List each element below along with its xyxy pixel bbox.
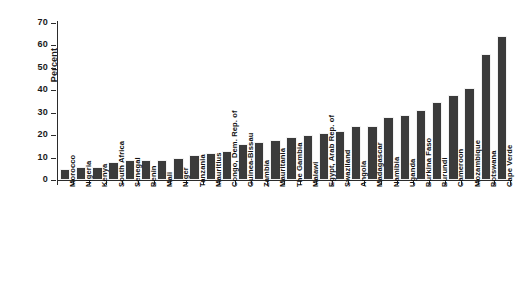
x-category-label: Tanzania: [198, 154, 207, 187]
x-category-label: Angola: [359, 161, 368, 187]
x-category-label: Niger: [181, 167, 190, 187]
x-category-label: Senegal: [133, 157, 142, 187]
x-category-label: Mauritania: [278, 148, 287, 187]
x-tick-mark: [57, 181, 58, 185]
x-category-label: Mali: [165, 172, 174, 187]
x-category-label: Benin: [149, 165, 158, 187]
x-category-label: Namibia: [392, 157, 401, 187]
x-category-label: Burkina Faso: [424, 138, 433, 187]
x-category-label: South Africa: [117, 141, 126, 187]
x-category-label: Burundi: [440, 157, 449, 187]
x-category-label: Nigeria: [84, 161, 93, 187]
y-tick-label: 30: [22, 107, 48, 117]
y-tick-label: 60: [22, 39, 48, 49]
x-category-label: Zambia: [262, 160, 271, 187]
x-category-label: Egypt, Arab Rep. of: [327, 115, 336, 187]
y-tick-mark: [51, 90, 56, 91]
x-category-label: Kenya: [100, 164, 109, 187]
y-tick-label: 70: [22, 17, 48, 27]
y-tick-mark: [51, 68, 56, 69]
x-category-label: Congo, Dem. Rep. of: [230, 110, 239, 187]
y-tick-label: 50: [22, 62, 48, 72]
x-category-label: Malawi: [311, 162, 320, 188]
x-category-label: Cameroon: [456, 149, 465, 187]
x-category-label: Morocco: [68, 155, 77, 187]
y-tick-mark: [51, 180, 56, 181]
y-tick-label: 10: [22, 152, 48, 162]
y-tick-mark: [51, 23, 56, 24]
x-category-label: Cape Verde: [505, 145, 514, 187]
x-category-label: Uganda: [408, 159, 417, 187]
x-category-label: Guinea-Bissau: [246, 133, 255, 187]
y-tick-mark: [51, 158, 56, 159]
x-category-label: Mozambique: [473, 140, 482, 187]
x-category-label: The Gambia: [295, 143, 304, 187]
y-tick-mark: [51, 113, 56, 114]
y-tick-mark: [51, 45, 56, 46]
x-category-label: Mauritius: [214, 152, 223, 187]
y-tick-mark: [51, 135, 56, 136]
chart-screenshot: Percent 010203040506070 MoroccoNigeriaKe…: [0, 0, 523, 282]
y-tick-label: 0: [22, 174, 48, 184]
x-category-label: Madagascar: [375, 142, 384, 187]
x-category-label: Swaziland: [343, 149, 352, 187]
y-tick-label: 20: [22, 129, 48, 139]
x-category-label: Botswana: [489, 150, 498, 187]
y-tick-label: 40: [22, 84, 48, 94]
